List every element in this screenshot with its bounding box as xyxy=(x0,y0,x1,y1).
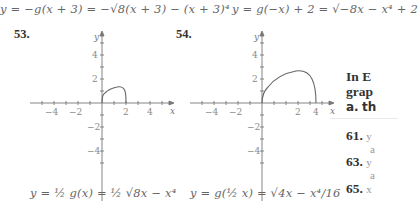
svg-text:4: 4 xyxy=(252,50,258,60)
graph-54: y x −4 −2 2 4 4 2 −2 −4 xyxy=(180,26,340,201)
svg-text:−4: −4 xyxy=(45,107,59,117)
exercise-63: 63. y xyxy=(346,154,372,170)
svg-text:4: 4 xyxy=(92,50,98,60)
svg-text:2: 2 xyxy=(252,74,258,84)
curve-53 xyxy=(102,87,126,103)
svg-text:y: y xyxy=(253,32,260,42)
equation-top-right: y = g(−x) + 2 = √−8x − x⁴ + 2 xyxy=(232,2,418,16)
sidebar-line-3: a. th xyxy=(346,99,376,115)
divider xyxy=(330,118,398,119)
sidebar-line-1: In E xyxy=(346,69,371,85)
svg-text:−2: −2 xyxy=(69,107,82,117)
equation-top-left: y = −g(x + 3) = −√8(x + 3) − (x + 3)⁴ xyxy=(0,2,230,16)
sidebar-line-2: grap xyxy=(346,84,373,100)
svg-text:−2: −2 xyxy=(247,122,260,132)
svg-text:2: 2 xyxy=(92,74,98,84)
svg-text:−2: −2 xyxy=(229,107,242,117)
svg-text:−4: −4 xyxy=(87,146,101,156)
y-axis-label: y xyxy=(93,32,100,42)
svg-text:4: 4 xyxy=(313,107,319,117)
graph-53: y x −4 −2 2 4 4 2 −2 −4 xyxy=(0,26,180,201)
svg-text:2: 2 xyxy=(295,107,301,117)
caption-53: y = ½ g(x) = ½ √8x − x⁴ xyxy=(30,186,177,200)
exercise-65: 65. x xyxy=(346,181,372,197)
svg-text:2: 2 xyxy=(123,107,129,117)
x-axis-label: x xyxy=(170,106,175,116)
curve-54 xyxy=(262,71,316,103)
svg-text:−2: −2 xyxy=(87,122,100,132)
exercise-61: 61. y xyxy=(346,128,372,144)
svg-text:x: x xyxy=(330,106,335,116)
svg-text:4: 4 xyxy=(147,107,153,117)
part-a-label: a. xyxy=(346,100,359,114)
svg-text:−4: −4 xyxy=(205,107,219,117)
part-a-text: th xyxy=(362,100,376,114)
caption-54: y = g(½ x) = √4x − x⁴/16 xyxy=(190,186,341,200)
svg-text:−4: −4 xyxy=(247,146,261,156)
